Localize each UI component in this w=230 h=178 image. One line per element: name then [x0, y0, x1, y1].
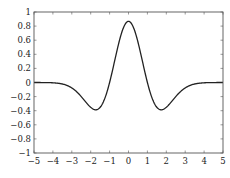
y-tick-label: −0.2	[10, 92, 31, 102]
x-tick-label: 4	[201, 156, 206, 166]
x-tick-label: −4	[47, 156, 60, 166]
x-tick-label: 5	[220, 156, 225, 166]
y-tick-label: 0.4	[17, 49, 31, 59]
x-tick-label: 2	[164, 156, 169, 166]
x-axis-ticks: −5−4−3−2−1012345	[28, 12, 226, 166]
y-tick-label: 1	[26, 7, 31, 17]
y-tick-label: 0.2	[17, 63, 31, 73]
plot-frame	[34, 12, 223, 153]
y-tick-label: 0.6	[17, 35, 31, 45]
x-tick-label: −5	[28, 156, 41, 166]
x-tick-label: 0	[126, 156, 131, 166]
y-tick-label: −0.4	[10, 106, 31, 116]
y-tick-label: 0	[26, 78, 31, 88]
x-tick-label: −1	[103, 156, 116, 166]
x-tick-label: 3	[182, 156, 187, 166]
line-chart: −1−0.8−0.6−0.4−0.200.20.40.60.81 −5−4−3−…	[0, 0, 230, 178]
wavelet-curve	[34, 21, 223, 109]
y-tick-label: −0.8	[10, 134, 31, 144]
x-tick-label: −2	[84, 156, 97, 166]
x-tick-label: 1	[145, 156, 150, 166]
y-tick-label: −0.6	[10, 120, 31, 130]
x-tick-label: −3	[66, 156, 79, 166]
y-tick-label: 0.8	[17, 21, 31, 31]
